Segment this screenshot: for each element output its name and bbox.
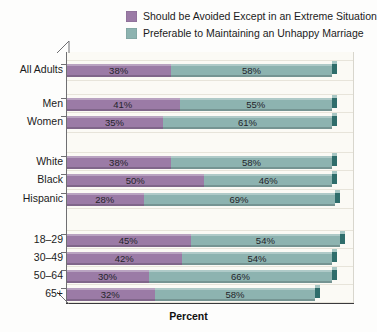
bar-end-cap [332,153,337,166]
bar-cap-side [315,288,320,298]
legend-item-1: Should be Avoided Except in an Extreme S… [126,8,377,25]
value-label-avoided: 38% [66,156,171,169]
bar-cap-side [332,252,337,262]
bar-end-cap [332,113,337,126]
x-axis-title: Percent [0,310,377,322]
gridline [66,112,354,113]
value-label-preferable: 69% [144,193,335,206]
gridline [66,248,354,249]
value-label-avoided: 30% [66,270,149,283]
gridline [66,266,354,267]
category-label-white: White [36,155,63,167]
bar-row: 32%58% [66,288,354,301]
legend-item-2: Preferable to Maintaining an Unhappy Mar… [126,25,377,42]
value-label-avoided: 45% [66,234,191,247]
value-label-avoided: 32% [66,288,155,301]
plot-area: 38%58%41%55%35%61%38%58%50%46%28%69%45%5… [66,52,354,304]
bar-end-cap [335,190,340,203]
category-label-men: Men [43,97,63,109]
category-label-women: Women [27,115,63,127]
bar-end-cap [332,95,337,108]
value-label-preferable: 54% [191,234,341,247]
category-label-50-64: 50–64 [34,269,63,281]
bar-row: 30%66% [66,270,354,283]
legend-item-label: Preferable to Maintaining an Unhappy Mar… [143,28,364,39]
value-label-avoided: 41% [66,98,180,111]
gridline [66,152,354,153]
bar-row: 45%54% [66,234,354,247]
bar-end-cap [332,249,337,262]
gridline [66,189,354,190]
chart-legend: Should be Avoided Except in an Extreme S… [126,8,377,42]
bar-end-cap [340,231,345,244]
bar-cap-side [332,174,337,184]
bar-row: 28%69% [66,193,354,206]
value-label-preferable: 66% [149,270,332,283]
gridline [66,80,354,81]
bar-cap-side [332,156,337,166]
category-label-black: Black [37,173,63,185]
category-label-65: 65+ [45,287,63,299]
value-label-preferable: 46% [204,174,331,187]
gridline [66,60,354,61]
bar-row: 50%46% [66,174,354,187]
legend-avoided-swatch-icon [126,11,137,22]
bar-row: 41%55% [66,98,354,111]
category-label-18-29: 18–29 [34,233,63,245]
value-label-preferable: 58% [171,64,332,77]
value-label-avoided: 28% [66,193,144,206]
value-label-avoided: 50% [66,174,204,187]
value-label-avoided: 35% [66,116,163,129]
bar-cap-side [332,64,337,74]
bar-end-cap [332,171,337,184]
value-label-avoided: 38% [66,64,171,77]
gridline [66,132,354,133]
plot-right-edge [353,52,354,304]
y-axis-line [66,52,67,304]
gridline [66,230,354,231]
bar-cap-side [335,193,340,203]
value-label-preferable: 55% [180,98,332,111]
gridline [66,94,354,95]
value-label-preferable: 58% [171,156,332,169]
gridline [66,284,354,285]
value-label-preferable: 61% [163,116,332,129]
bar-end-cap [332,267,337,280]
bar-row: 35%61% [66,116,354,129]
category-label-all-adults: All Adults [20,63,63,75]
bar-row: 38%58% [66,64,354,77]
chart-container: Should be Avoided Except in an Extreme S… [0,0,377,332]
bar-cap-side [332,116,337,126]
bar-end-cap [315,285,320,298]
category-label-hispanic: Hispanic [23,192,63,204]
legend-preferable-swatch-icon [126,28,137,39]
gridline [66,170,354,171]
bar-cap-side [340,234,345,244]
x-axis-line [66,303,354,305]
bar-row: 38%58% [66,156,354,169]
value-label-preferable: 58% [155,288,316,301]
bar-cap-side [332,98,337,108]
bar-cap-side [332,270,337,280]
gridline [66,208,354,209]
value-label-avoided: 42% [66,252,182,265]
category-label-30-49: 30–49 [34,251,63,263]
value-label-preferable: 54% [182,252,332,265]
bar-end-cap [332,61,337,74]
axis-3d-corner-top-icon [56,40,70,54]
legend-item-label: Should be Avoided Except in an Extreme S… [143,11,377,22]
bar-row: 42%54% [66,252,354,265]
